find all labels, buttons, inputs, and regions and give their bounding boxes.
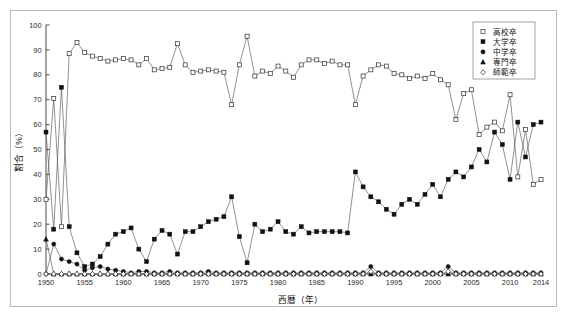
- y-axis-title: 割合（%）: [13, 128, 24, 172]
- series-高校卒: [44, 34, 543, 228]
- data-point: [531, 123, 535, 127]
- y-tick-label: 50: [33, 145, 41, 154]
- data-point: [214, 69, 218, 73]
- x-tick-label: 2000: [424, 278, 440, 287]
- series-専門卒: [44, 237, 544, 276]
- data-point: [299, 63, 303, 67]
- x-tick-label: 1980: [270, 278, 286, 287]
- data-point: [330, 59, 334, 63]
- data-point: [493, 120, 497, 124]
- data-point: [75, 262, 79, 266]
- x-tick-label: 1965: [154, 278, 170, 287]
- data-point: [253, 222, 257, 226]
- data-point: [44, 271, 49, 276]
- data-point: [508, 177, 512, 181]
- legend-marker-大学卒: [481, 40, 485, 44]
- series-line: [46, 87, 541, 266]
- x-tick-label: 1950: [38, 278, 54, 287]
- data-point: [160, 67, 164, 71]
- data-point: [52, 242, 56, 246]
- data-point: [145, 57, 149, 61]
- data-point: [423, 192, 427, 196]
- data-point: [438, 195, 442, 199]
- data-point: [199, 225, 203, 229]
- series-line: [46, 36, 541, 226]
- y-tick-label: 40: [33, 170, 41, 179]
- data-point: [183, 63, 187, 67]
- data-point: [137, 63, 141, 67]
- data-point: [307, 58, 311, 62]
- data-point: [322, 62, 326, 66]
- data-point: [415, 74, 419, 78]
- data-point: [59, 85, 63, 89]
- x-tick-label: 1960: [115, 278, 131, 287]
- data-point: [98, 264, 102, 268]
- line-chart: 0102030405060708090100 19501955196019651…: [0, 0, 569, 319]
- data-point: [539, 177, 543, 181]
- data-point: [415, 202, 419, 206]
- data-point: [438, 78, 442, 82]
- data-point: [485, 125, 489, 129]
- data-point: [52, 227, 56, 231]
- data-point: [199, 69, 203, 73]
- data-point: [508, 93, 512, 97]
- x-axis-title: 西暦（年）: [278, 294, 323, 305]
- data-point: [261, 230, 265, 234]
- data-point: [75, 40, 79, 44]
- chart-legend: 高校卒大学卒中学卒専門卒師範卒: [473, 22, 535, 79]
- data-point: [52, 96, 56, 100]
- data-point: [400, 73, 404, 77]
- data-point: [206, 68, 210, 72]
- data-point: [423, 77, 427, 81]
- data-point: [121, 230, 125, 234]
- data-point: [67, 259, 71, 263]
- data-point: [516, 120, 520, 124]
- y-tick-label: 90: [33, 46, 41, 55]
- data-point: [477, 148, 481, 152]
- y-tick-label: 10: [33, 245, 41, 254]
- data-point: [299, 225, 303, 229]
- legend-label: 大学卒: [493, 37, 517, 47]
- data-point: [152, 237, 156, 241]
- data-point: [67, 225, 71, 229]
- data-point: [206, 220, 210, 224]
- legend-label: 師範卒: [493, 67, 517, 77]
- data-point: [284, 69, 288, 73]
- data-point: [230, 103, 234, 107]
- data-point: [485, 160, 489, 164]
- legend-marker-高校卒: [481, 30, 485, 34]
- data-point: [129, 226, 133, 230]
- data-point: [377, 63, 381, 67]
- data-point: [152, 68, 156, 72]
- data-point: [353, 103, 357, 107]
- data-point: [175, 252, 179, 256]
- x-tick-label: 2010: [502, 278, 518, 287]
- series-大学卒: [44, 85, 543, 268]
- data-point: [222, 215, 226, 219]
- chart-container: 0102030405060708090100 19501955196019651…: [0, 0, 569, 319]
- legend-label: 中学卒: [493, 47, 517, 57]
- data-point: [539, 120, 543, 124]
- data-point: [253, 74, 257, 78]
- data-point: [361, 185, 365, 189]
- data-point: [462, 91, 466, 95]
- series-line: [46, 239, 541, 274]
- x-tick-label: 1955: [76, 278, 92, 287]
- data-point: [98, 255, 102, 259]
- data-point: [346, 63, 350, 67]
- data-point: [500, 143, 504, 147]
- data-point: [369, 195, 373, 199]
- data-point: [322, 230, 326, 234]
- series-group: [44, 34, 544, 276]
- data-point: [477, 133, 481, 137]
- y-tick-label: 60: [33, 120, 41, 129]
- data-point: [183, 230, 187, 234]
- data-point: [59, 257, 63, 261]
- data-point: [369, 269, 374, 274]
- data-point: [408, 197, 412, 201]
- data-point: [121, 57, 125, 61]
- data-point: [446, 264, 450, 268]
- data-point: [230, 195, 234, 199]
- data-point: [276, 64, 280, 68]
- legend-label: 高校卒: [493, 27, 517, 37]
